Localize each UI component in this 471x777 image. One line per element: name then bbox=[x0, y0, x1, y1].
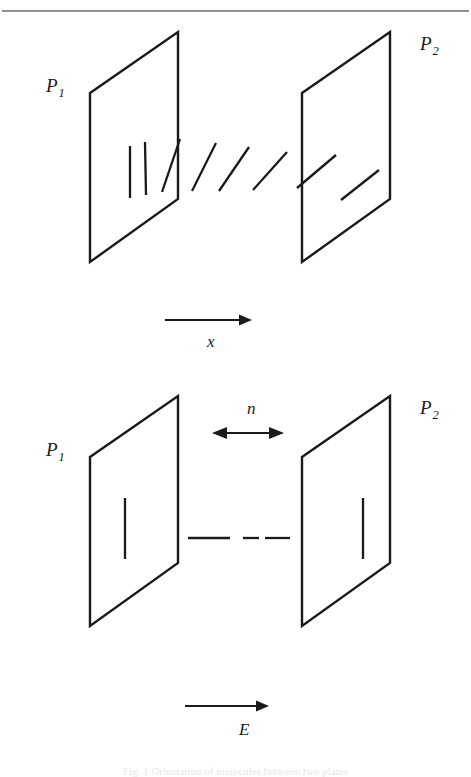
plane-outline bbox=[302, 32, 390, 262]
arrow-head-left-icon bbox=[212, 427, 227, 439]
molecule-segment bbox=[192, 143, 216, 191]
plane-label-p2: P2 bbox=[419, 397, 439, 422]
plane-label-p2: P2 bbox=[419, 33, 439, 58]
arrow-head-right-icon bbox=[239, 315, 252, 326]
plane-label-p1: P1 bbox=[45, 439, 65, 464]
splayed-orientation-panel: P1 P2 bbox=[45, 32, 439, 351]
arrow-head-right-icon bbox=[269, 427, 284, 439]
axis-label-x: x bbox=[206, 332, 215, 351]
plane-p1-top: P1 bbox=[45, 32, 178, 262]
plane-outline bbox=[90, 32, 178, 262]
plane-p1-bottom: P1 bbox=[45, 396, 178, 626]
normal-arrow-n: n bbox=[212, 399, 284, 439]
plane-p2-top: P2 bbox=[302, 32, 439, 262]
axis-label-e: E bbox=[238, 720, 250, 739]
molecule-segments-bottom bbox=[125, 498, 363, 559]
molecule-segment bbox=[145, 142, 146, 195]
plane-outline bbox=[90, 396, 178, 626]
figure-canvas: P1 P2 bbox=[0, 0, 471, 777]
axis-arrow-x: x bbox=[165, 315, 252, 352]
molecule-segments-top bbox=[130, 139, 379, 200]
plane-outline bbox=[302, 396, 390, 626]
normal-label-n: n bbox=[247, 399, 256, 418]
figure-root: P1 P2 bbox=[0, 0, 471, 777]
molecule-segment bbox=[253, 152, 287, 190]
aligned-field-panel: P1 P2 n bbox=[45, 396, 439, 739]
plane-label-p1: P1 bbox=[45, 75, 65, 100]
axis-arrow-e: E bbox=[185, 701, 269, 740]
molecule-segment bbox=[219, 147, 249, 191]
plane-p2-bottom: P2 bbox=[302, 396, 439, 626]
arrow-head-right-icon bbox=[256, 701, 269, 712]
molecule-segment bbox=[341, 170, 379, 200]
